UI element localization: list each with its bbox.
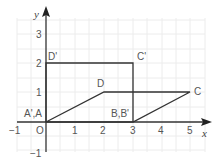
x-tick-3: 3 (130, 125, 136, 136)
y-tick-2: 2 (36, 58, 42, 69)
grid (17, 18, 205, 152)
point-label-Cp: C' (137, 51, 146, 62)
point-label-Dp: D' (48, 51, 57, 62)
y-tick-3: 3 (36, 29, 42, 40)
x-tick-1: 1 (72, 125, 78, 136)
y-tick-neg1: −1 (30, 148, 42, 159)
point-label-BB: B,B' (111, 108, 129, 119)
x-tick-5: 5 (187, 125, 193, 136)
x-tick-neg1: −1 (9, 125, 21, 136)
point-label-D: D (97, 78, 104, 89)
x-axis-label: x (201, 127, 207, 139)
point-label-AA: A',A (24, 108, 42, 119)
point-label-C: C (194, 86, 201, 97)
origin-label: O (36, 125, 44, 136)
coordinate-plane: x y O −1 1 2 3 4 5 −1 1 2 3 A',A B,B' C … (0, 0, 218, 165)
y-axis-label: y (33, 8, 39, 20)
x-tick-2: 2 (100, 125, 106, 136)
x-tick-4: 4 (158, 125, 164, 136)
y-tick-1: 1 (36, 87, 42, 98)
